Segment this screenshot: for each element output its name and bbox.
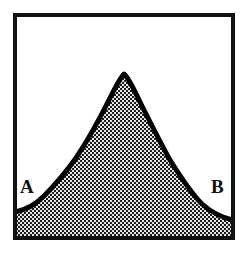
plot-canvas: [0, 0, 248, 253]
point-label-b: B: [211, 177, 224, 196]
figure-root: A B: [0, 0, 248, 253]
point-label-a: A: [20, 177, 34, 196]
